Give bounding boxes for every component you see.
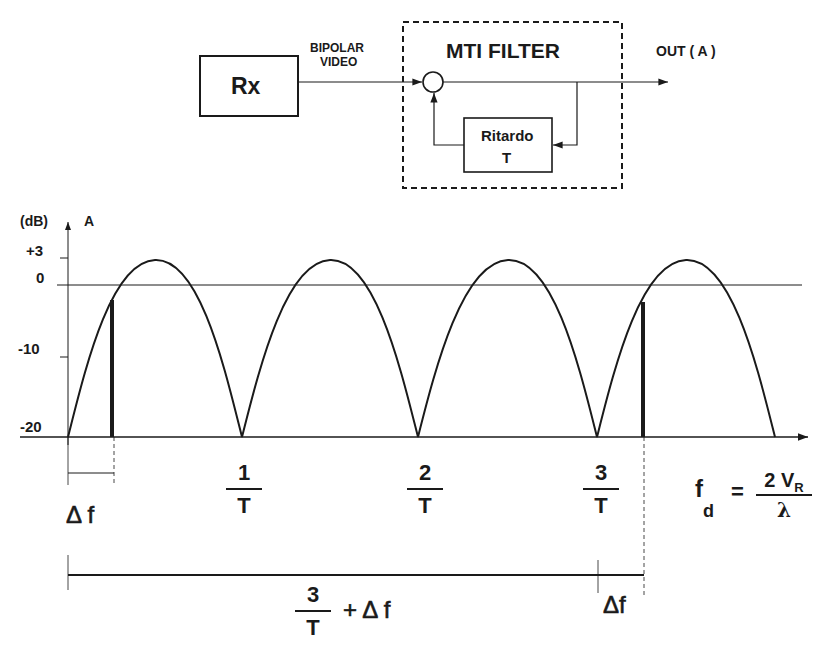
dimension-lines: [68, 437, 644, 595]
block-diagram: [200, 22, 668, 188]
receiver-label: Rx: [231, 75, 260, 98]
filter-title: MTI FILTER: [446, 40, 560, 61]
delay-label-line2: T: [502, 150, 511, 165]
y-unit-label: (dB): [20, 214, 48, 228]
span-delta-f-right: Δf: [603, 593, 626, 617]
signal-label-line1: BIPOLAR: [310, 42, 364, 54]
span-plus-delta-f: + Δ f: [343, 598, 390, 622]
signal-label-line2: VIDEO: [320, 56, 357, 68]
response-curve: [68, 260, 775, 437]
y-tick-minus20: -20: [20, 419, 42, 434]
span-3-over-T: 3 T: [295, 584, 331, 639]
doppler-f: f: [695, 477, 703, 501]
chart-axes: [20, 222, 808, 445]
doppler-equals: =: [731, 481, 744, 503]
delay-label-line1: Ritardo: [481, 128, 534, 143]
summing-junction: [423, 72, 443, 92]
x-tick-2-over-T: 2 T: [407, 462, 443, 517]
x-tick-1-over-T: 1 T: [226, 462, 262, 517]
y-tick-0: 0: [36, 270, 44, 285]
delay-to-junction: [434, 93, 464, 145]
doppler-sub-d: d: [703, 502, 714, 520]
feedback-to-delay: [553, 82, 577, 145]
y-tick-plus3: +3: [26, 243, 43, 258]
x-tick-3-over-T: 3 T: [583, 462, 619, 517]
y-symbol-label: A: [84, 214, 94, 228]
spectral-line-left: [110, 300, 114, 437]
spectral-line-right: [641, 302, 645, 437]
delta-f-label: Δ f: [66, 503, 94, 527]
output-label: OUT ( A ): [656, 44, 716, 58]
doppler-fraction: 2 VR λ: [756, 470, 812, 520]
y-tick-minus10: -10: [18, 341, 40, 356]
diagram-canvas: [0, 0, 821, 661]
